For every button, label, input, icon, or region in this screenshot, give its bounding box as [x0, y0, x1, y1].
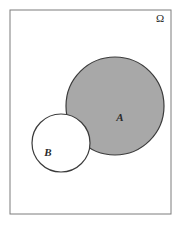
venn-diagram-figure: A B Ω	[0, 0, 181, 226]
omega-symbol: Ω	[156, 12, 164, 24]
set-circle-b	[32, 114, 90, 172]
set-label-a: A	[115, 111, 123, 123]
set-label-b: B	[43, 146, 51, 158]
venn-diagram-canvas: A B Ω	[0, 0, 181, 226]
